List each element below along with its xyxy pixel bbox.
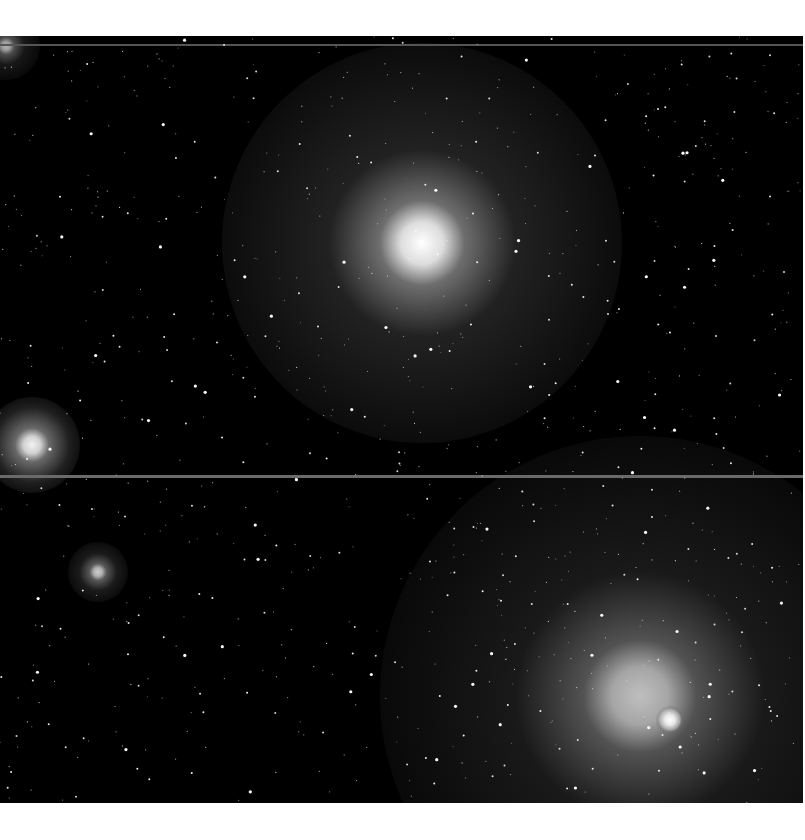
star-points — [0, 36, 803, 803]
starfield-image — [0, 36, 803, 803]
